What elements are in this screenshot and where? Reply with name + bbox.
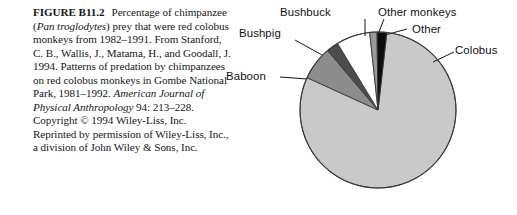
pie-label-colobus: Colobus <box>455 44 498 56</box>
leader-line-baboon <box>280 77 307 79</box>
leader-line-other-monkeys <box>379 19 384 32</box>
pie-label-other: Other <box>412 23 441 35</box>
caption-species-name: Pan troglodytes <box>37 20 106 32</box>
figure-container: FIGURE B11.2Percentage of chimpanzee (Pa… <box>0 0 517 215</box>
leader-line-colobus <box>433 52 454 62</box>
pie-chart-svg <box>252 0 517 215</box>
pie-label-baboon: Baboon <box>226 70 266 82</box>
pie-slice-group <box>300 32 456 188</box>
figure-caption: FIGURE B11.2Percentage of chimpanzee (Pa… <box>33 6 231 155</box>
pie-label-other-monkeys: Other monkeys <box>378 6 457 18</box>
leader-line-bushpig <box>295 40 322 55</box>
pie-chart <box>252 0 517 215</box>
figure-number: FIGURE B11.2 <box>33 6 105 18</box>
pie-label-bushbuck: Bushbuck <box>280 6 331 18</box>
pie-label-bushpig: Bushpig <box>239 27 281 39</box>
